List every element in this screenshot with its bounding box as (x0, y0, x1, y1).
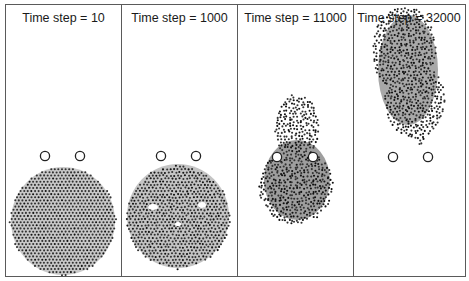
aggregate-t10 (9, 151, 117, 276)
obstacle-circle (308, 152, 317, 161)
obstacle-circle (40, 151, 49, 160)
panel-title: Time step = 32000 (354, 11, 464, 25)
aggregate-t11000 (258, 94, 334, 224)
simulation-drawing (0, 0, 469, 281)
panel-title: Time step = 11000 (238, 11, 353, 25)
aggregate-t32000 (372, 7, 445, 161)
obstacle-circle (75, 151, 84, 160)
panel-title: Time step = 1000 (122, 11, 237, 25)
aggregate-t1000 (126, 151, 231, 270)
obstacle-circle (191, 151, 200, 160)
obstacle-circle (156, 151, 165, 160)
panel-title: Time step = 10 (6, 11, 121, 25)
obstacle-circle (423, 152, 432, 161)
obstacle-circle (388, 152, 397, 161)
obstacle-circle (272, 152, 281, 161)
